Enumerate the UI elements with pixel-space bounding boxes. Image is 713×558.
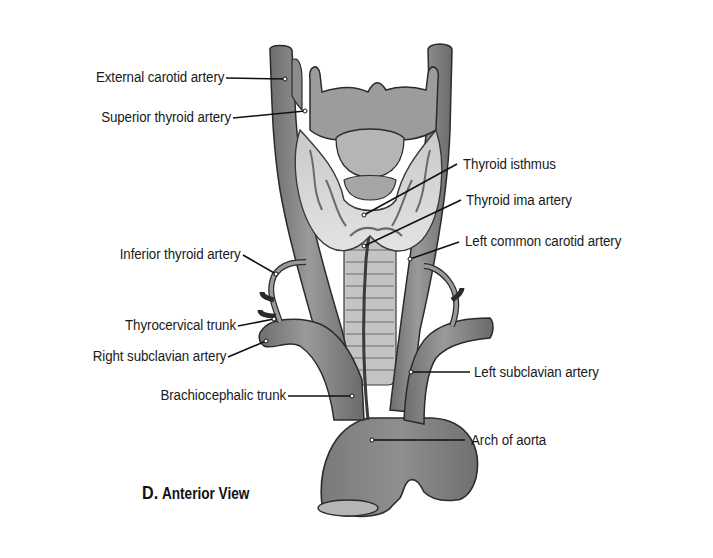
label-arch-of-aorta: Arch of aorta <box>471 431 546 449</box>
label-inferior-thyroid-artery: Inferior thyroid artery <box>120 245 241 263</box>
label-right-subclavian-artery: Right subclavian artery <box>92 347 226 365</box>
label-thyrocervical-trunk: Thyrocervical trunk <box>125 316 236 334</box>
label-superior-thyroid-artery: Superior thyroid artery <box>101 108 231 126</box>
label-brachiocephalic-trunk: Brachiocephalic trunk <box>160 386 286 404</box>
view-title: Anterior View <box>162 485 249 502</box>
panel-letter: D. <box>142 482 158 503</box>
label-thyroid-isthmus: Thyroid isthmus <box>463 155 556 173</box>
label-left-subclavian-artery: Left subclavian artery <box>474 363 599 381</box>
aortic-arch <box>318 418 477 516</box>
label-left-common-carotid-artery: Left common carotid artery <box>465 232 621 250</box>
label-thyroid-ima-artery: Thyroid ima artery <box>466 191 572 209</box>
figure-caption: D. Anterior View <box>142 482 249 504</box>
label-external-carotid-artery: External carotid artery <box>96 68 224 86</box>
